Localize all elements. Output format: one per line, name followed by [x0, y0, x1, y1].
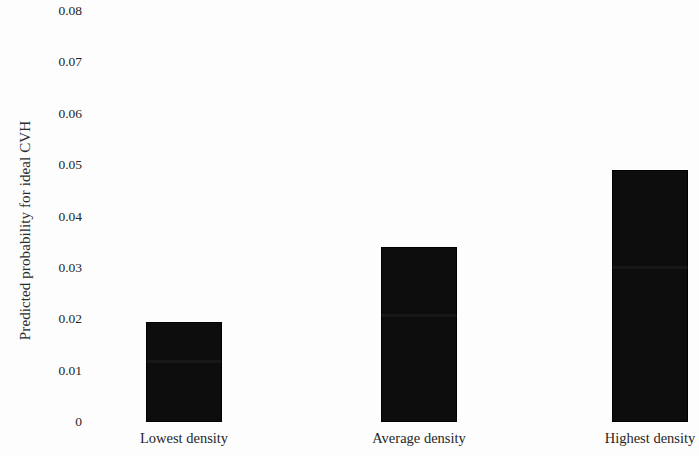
y-tick-label: 0.08 — [26, 4, 82, 18]
x-axis-category-labels: Lowest densityAverage densityHighest den… — [92, 430, 699, 456]
bar — [381, 247, 457, 422]
y-tick-label: 0.03 — [26, 261, 82, 275]
y-tick-label: 0.04 — [26, 210, 82, 224]
bar — [146, 322, 222, 422]
plot-area — [92, 8, 699, 426]
y-tick-label: 0.06 — [26, 107, 82, 121]
y-tick-label: 0.01 — [26, 364, 82, 378]
x-category-label: Average density — [372, 430, 466, 447]
bar-chart-figure: Predicted probability for ideal CVH 0.08… — [0, 0, 699, 456]
y-tick-label: 0 — [26, 415, 82, 429]
y-tick-label: 0.02 — [26, 313, 82, 327]
y-tick-label: 0.07 — [26, 56, 82, 70]
y-tick-label: 0.05 — [26, 158, 82, 172]
bar — [612, 170, 688, 422]
x-category-label: Highest density — [605, 430, 696, 447]
y-axis-tick-labels: 0.080.070.060.050.040.030.020.010 — [26, 0, 82, 456]
x-category-label: Lowest density — [140, 430, 228, 447]
